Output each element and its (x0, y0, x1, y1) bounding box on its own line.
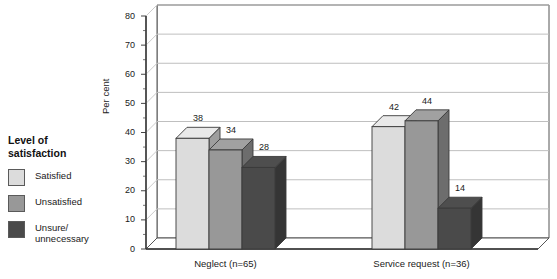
bar-value-label: 42 (380, 102, 408, 112)
bar-value-label: 28 (250, 142, 278, 152)
y-axis-tick-label: 50 (113, 99, 135, 108)
bar-value-label: 44 (413, 96, 441, 106)
x-axis-category-label: Neglect (n=65) (146, 258, 306, 269)
legend-label-satisfied: Satisfied (35, 169, 71, 182)
bar-value-label: 34 (217, 125, 245, 135)
legend-swatch-unsure (8, 221, 25, 238)
y-axis-tick-label: 0 (113, 245, 135, 254)
y-axis-tick-label: 70 (113, 41, 135, 50)
x-axis-category-label: Service request (n=36) (342, 258, 502, 269)
y-axis-tick-label: 30 (113, 157, 135, 166)
legend-swatch-unsatisfied (8, 195, 25, 212)
y-axis-tick-label: 20 (113, 186, 135, 195)
bar-value-label: 14 (446, 183, 474, 193)
legend-label-unsure: Unsure/ unnecessary (35, 221, 89, 244)
y-axis-tick-label: 80 (113, 12, 135, 21)
legend-label-unsatisfied: Unsatisfied (35, 195, 82, 208)
legend-swatch-satisfied (8, 169, 25, 186)
y-axis-tick-label: 60 (113, 70, 135, 79)
chart-canvas (104, 4, 557, 279)
bar-chart: Per cent 01020304050607080383428Neglect … (104, 4, 557, 279)
bar-value-label: 38 (184, 113, 212, 123)
y-axis-tick-label: 40 (113, 128, 135, 137)
y-axis-tick-label: 10 (113, 215, 135, 224)
legend-title: Level of satisfaction (8, 134, 104, 160)
